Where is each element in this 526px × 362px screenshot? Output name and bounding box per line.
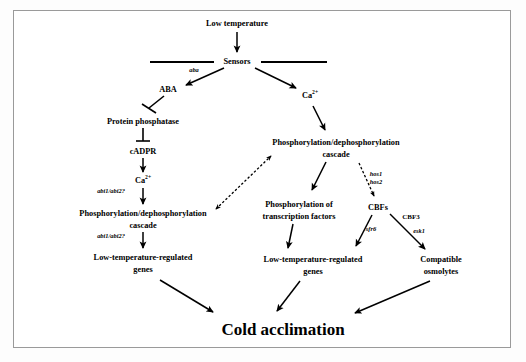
node-sensors: Sensors	[223, 57, 251, 66]
edge-calcium-to-cascade-right	[313, 106, 325, 130]
edge-transcription-to-genes-center	[288, 224, 293, 248]
edge-genes-left-to-cold-acclimation	[160, 280, 213, 312]
edge-sensors-to-calcium	[255, 68, 296, 88]
node-cascade-left-line2: cascade	[129, 221, 157, 230]
edge-label-hos2: hos2	[370, 178, 383, 185]
edge-label-esk1: esk1	[413, 227, 425, 234]
node-genes-left-line2: genes	[133, 265, 153, 274]
edge-label-aba: aba	[189, 66, 199, 73]
edge-cascade-to-transcription	[312, 162, 326, 190]
node-cascade-right-line2: cascade	[322, 150, 350, 159]
edge-label-abi-lower: abi1/abi2?	[97, 232, 125, 239]
node-cadpr: cADPR	[130, 147, 158, 156]
node-aba: ABA	[159, 85, 177, 94]
node-transcription-line2: transcription factors	[262, 212, 336, 221]
edge-genes-center-to-cold-acclimation	[277, 281, 300, 311]
edge-osmolytes-to-cold-acclimation	[355, 281, 430, 313]
node-calcium-right: Ca2+	[302, 89, 318, 100]
node-osmolytes-line2: osmolytes	[424, 267, 459, 276]
node-protein-phosphatase: Protein phosphatase	[107, 117, 179, 126]
node-low-temperature: Low temperature	[206, 19, 268, 28]
edge-label-cbf3: CBF3	[402, 213, 420, 221]
node-cascade-right-line1: Phosphorylation/dephosphorylation	[272, 138, 400, 147]
node-cold-acclimation: Cold acclimation	[221, 320, 345, 339]
pathway-diagram: Low temperature Sensors aba ABA Protein …	[0, 0, 526, 362]
node-genes-left-line1: Low-temperature-regulated	[94, 253, 193, 262]
node-cascade-left-line1: Phosphorylation/dephosphorylation	[79, 209, 207, 218]
node-osmolytes-line1: Compatible	[420, 255, 462, 264]
edge-label-sfr6: sfr6	[365, 225, 377, 232]
node-genes-center-line1: Low-temperature-regulated	[264, 255, 363, 264]
edge-crosstalk-cascades	[216, 156, 271, 209]
figure-frame: Low temperature Sensors aba ABA Protein …	[0, 0, 526, 362]
edge-label-abi-upper: abi1/abi2?	[97, 187, 125, 194]
node-transcription-line1: Phosphorylation of	[265, 200, 333, 209]
edge-aba-inhibits-phosphatase	[149, 96, 164, 108]
node-genes-center-line2: genes	[303, 267, 323, 276]
node-cbfs: CBFs	[368, 203, 389, 212]
edge-aba-inhibits-phosphatase-bar	[142, 104, 156, 113]
node-calcium-left: Ca2+	[135, 174, 151, 185]
edge-label-hos1: hos1	[370, 170, 382, 177]
